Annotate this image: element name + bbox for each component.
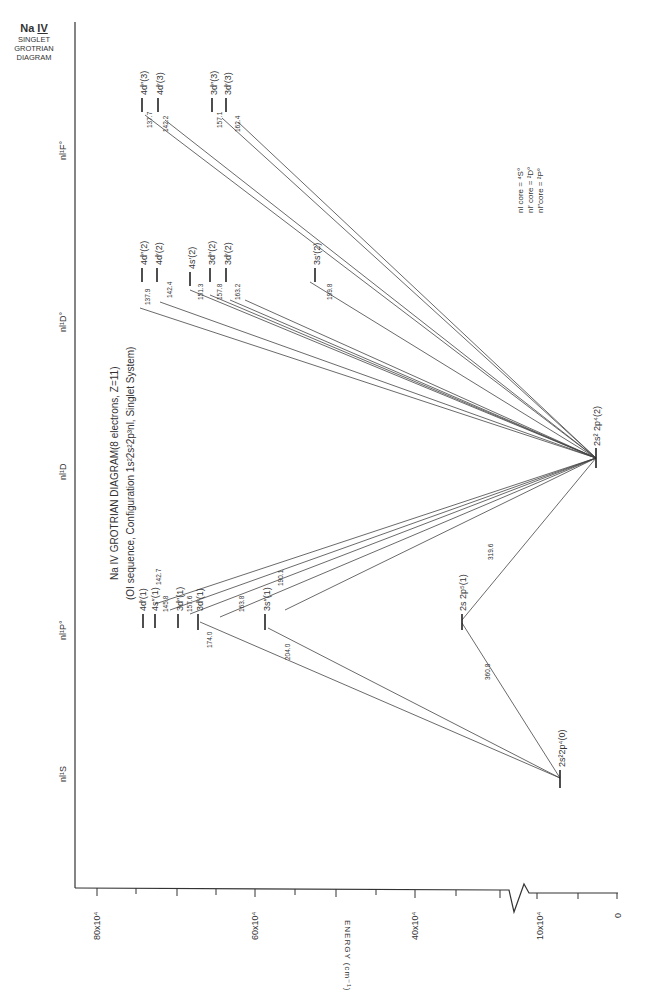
wl-199-8: 199.8 bbox=[326, 283, 333, 300]
column-label-nl1Po: nl¹P° bbox=[58, 620, 68, 640]
label-4d''-3: 4d″(3) bbox=[139, 71, 149, 95]
label-3d'-3: 3d′(3) bbox=[223, 72, 233, 95]
label-4d''-2: 4d″(2) bbox=[139, 241, 149, 265]
wl-163-8: 163.8 bbox=[238, 595, 245, 612]
title-line-2: (OI sequence, Configuration 1s²2s²2p³nl,… bbox=[125, 347, 136, 600]
corner-line-singlet: SINGLET bbox=[4, 35, 64, 44]
tick-label-80e4: 80x10⁴ bbox=[92, 911, 102, 940]
grotrian-diagram: Na IV SINGLET GROTRIAN DIAGRAM bbox=[0, 0, 647, 996]
ion-numeral: IV bbox=[37, 22, 47, 34]
axis-label-energy: ENERGY (cm⁻¹) bbox=[343, 920, 352, 992]
column-labels: nl¹S nl¹P° nl¹D nl¹D° nl¹F° bbox=[58, 141, 68, 782]
corner-line-grotrian: GROTRIAN bbox=[4, 44, 64, 53]
label-4s''-1: 4s″(1) bbox=[150, 587, 160, 611]
wl-142-2: 142.2 bbox=[162, 115, 169, 132]
label-3d''-2: 3d″(2) bbox=[207, 241, 217, 265]
wl-157-6: 157.6 bbox=[186, 595, 193, 612]
legend-line-1: nl core = ⁴S° bbox=[516, 168, 525, 213]
label-ground: 2s² 2p⁴(2) bbox=[592, 406, 602, 446]
wl-145-8: 145.8 bbox=[162, 595, 169, 612]
label-3d'-1: 3d′(1) bbox=[195, 588, 205, 611]
wl-204-0: 204.0 bbox=[284, 643, 291, 660]
legend-line-2: nl′ core = ²D° bbox=[526, 167, 535, 213]
wl-157-1: 157.1 bbox=[216, 111, 223, 128]
label-3d''-3: 3d″(3) bbox=[209, 71, 219, 95]
wl-137-9: 137.9 bbox=[144, 288, 151, 305]
column-label-nl1Fo: nl¹F° bbox=[58, 141, 68, 160]
column-label-nl1S: nl¹S bbox=[58, 766, 68, 782]
column-label-nl1Do: nl¹D° bbox=[58, 311, 68, 332]
wl-360-8: 360.8 bbox=[484, 663, 491, 680]
wl-137-7: 137.7 bbox=[146, 111, 153, 128]
title-line-1: Na IV GROTRIAN DIAGRAM(8 electrons, Z=11… bbox=[109, 367, 120, 580]
corner-label: Na IV SINGLET GROTRIAN DIAGRAM bbox=[4, 22, 64, 62]
label-3d'-2: 3d′(2) bbox=[223, 242, 233, 265]
tick-label-10e4: 10x10⁴ bbox=[535, 911, 545, 940]
tick-label-0: 0 bbox=[613, 913, 623, 918]
wl-319-6: 319.6 bbox=[487, 543, 494, 560]
energy-axis: 80x10⁴ 60x10⁴ 40x10⁴ 10x10⁴ 0 ENERGY (cm… bbox=[75, 884, 623, 992]
wl-151-3: 151.3 bbox=[197, 283, 204, 300]
wl-142-4: 142.4 bbox=[166, 281, 173, 298]
label-4d'-1: 4d′(1) bbox=[138, 588, 148, 611]
label-4d'-2: 4d′(2) bbox=[154, 242, 164, 265]
label-3s''-1: 3s″(1) bbox=[262, 587, 272, 611]
legend-line-3: nl″core = ²P° bbox=[536, 168, 545, 213]
transition-lines bbox=[140, 115, 596, 778]
column-label-nl1D: nl¹D bbox=[58, 463, 68, 480]
tick-label-60e4: 60x10⁴ bbox=[250, 911, 260, 940]
wl-190-1: 190.1 bbox=[277, 569, 284, 586]
label-4d'-3: 4d′(3) bbox=[155, 72, 165, 95]
label-2s-2p5-1: 2s 2p⁵(1) bbox=[458, 574, 468, 611]
label-4s'-2: 4s′(2) bbox=[187, 247, 197, 269]
label-2s2-2p4-0: 2s²2p⁴(0) bbox=[557, 730, 567, 767]
diagram-canvas: 80x10⁴ 60x10⁴ 40x10⁴ 10x10⁴ 0 ENERGY (cm… bbox=[0, 0, 647, 996]
wl-162-4: 162.4 bbox=[234, 115, 241, 132]
wl-157-8: 157.8 bbox=[216, 283, 223, 300]
wl-163-2: 163.2 bbox=[234, 283, 241, 300]
tick-label-40e4: 40x10⁴ bbox=[410, 911, 420, 940]
element-symbol: Na bbox=[20, 22, 34, 34]
label-3s'-2: 3s′(2) bbox=[312, 243, 322, 265]
label-3d''-1: 3d″(1) bbox=[175, 587, 185, 611]
wl-174-0: 174.0 bbox=[206, 631, 213, 648]
diagram-title: Na IV GROTRIAN DIAGRAM(8 electrons, Z=11… bbox=[109, 347, 136, 600]
corner-line-diagram: DIAGRAM bbox=[4, 53, 64, 62]
wl-142-7: 142.7 bbox=[155, 568, 162, 585]
core-legend: nl core = ⁴S° nl′ core = ²D° nl″core = ²… bbox=[516, 167, 545, 213]
